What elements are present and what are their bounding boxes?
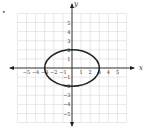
x-tick-label: 5 bbox=[116, 69, 119, 75]
y-tick-label: −3 bbox=[63, 92, 70, 98]
y-tick-label: 1 bbox=[67, 56, 70, 62]
y-tick-label: −5 bbox=[63, 111, 70, 117]
x-tick-label: −5 bbox=[23, 69, 30, 75]
y-tick-label: 5 bbox=[67, 20, 70, 26]
y-tick-label: 3 bbox=[67, 38, 70, 44]
y-tick-label: −4 bbox=[63, 101, 70, 107]
y-tick-label: −1 bbox=[63, 74, 70, 80]
coordinate-plane: −5−4−3−2−112345−5−4−3−2−112345 x y bbox=[0, 0, 147, 129]
x-tick-label: −4 bbox=[32, 69, 39, 75]
y-tick-label: 4 bbox=[67, 29, 70, 35]
x-axis-label: x bbox=[139, 64, 143, 72]
x-tick-label: −2 bbox=[50, 69, 57, 75]
axes bbox=[9, 3, 135, 127]
y-axis-label: y bbox=[73, 0, 79, 8]
x-tick-label: 2 bbox=[89, 69, 92, 75]
x-tick-label: 4 bbox=[107, 69, 110, 75]
x-tick-label: 1 bbox=[80, 69, 83, 75]
